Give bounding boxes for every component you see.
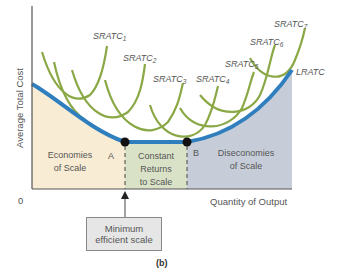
- sratc-3-curve: [105, 80, 183, 130]
- point-a-label: A: [108, 151, 114, 161]
- diseconomies-label-2: of Scale: [230, 161, 263, 171]
- sratc-4-curve: [150, 86, 218, 137]
- lratc-label: LRATC: [296, 67, 325, 77]
- mes-label-2: efficient scale: [87, 234, 161, 245]
- sratc-6-label: SRATC6: [250, 37, 284, 48]
- constant-label-3: to Scale: [140, 177, 173, 187]
- mes-label-1: Minimum: [87, 223, 161, 234]
- constant-label-2: Returns: [140, 164, 172, 174]
- point-a: [121, 138, 130, 147]
- sratc-3-label: SRATC3: [153, 74, 187, 85]
- diseconomies-label-1: Diseconomies: [218, 148, 275, 158]
- economies-label-1: Economies: [48, 150, 93, 160]
- y-axis-label: Average Total Cost: [14, 68, 25, 148]
- x-axis-label: Quantity of Output: [210, 196, 287, 207]
- sratc-2-label: SRATC2: [123, 53, 157, 64]
- sratc-7-label: SRATC7: [274, 19, 308, 30]
- figure-caption: (b): [156, 258, 168, 268]
- constant-label-1: Constant: [138, 151, 175, 161]
- point-b: [183, 138, 192, 147]
- point-b-label: B: [193, 148, 199, 158]
- economies-label-2: of Scale: [54, 163, 87, 173]
- origin-label: 0: [18, 195, 23, 206]
- sratc-5-label: SRATC5: [225, 59, 259, 70]
- sratc-1-curve: [42, 46, 107, 99]
- arrow-head-icon: [121, 191, 129, 199]
- sratc-4-label: SRATC4: [196, 74, 230, 85]
- sratc-1-label: SRATC1: [93, 31, 127, 42]
- chart-canvas: Average Total Cost Quantity of Output 0 …: [0, 0, 347, 273]
- minimum-efficient-scale-box: Minimum efficient scale: [86, 217, 162, 251]
